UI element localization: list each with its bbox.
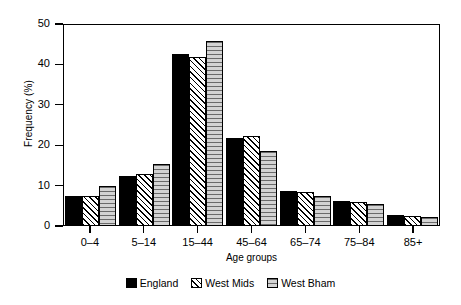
y-axis-tick xyxy=(55,225,63,226)
bar-chart-figure: Frequency (%) 01020304050 0–45–1415–4445… xyxy=(0,0,461,305)
legend-swatch-england xyxy=(126,278,137,288)
bar-west-bham xyxy=(99,186,116,225)
bar-west-mids xyxy=(404,216,421,225)
bar-west-mids xyxy=(297,192,314,225)
bar-west-bham xyxy=(367,204,384,225)
bar-west-mids xyxy=(82,196,99,225)
x-axis-tick xyxy=(359,226,360,233)
legend-swatch-west-bham xyxy=(267,278,278,288)
bar-west-bham xyxy=(206,41,223,225)
bar-west-bham xyxy=(260,151,277,225)
bar-group xyxy=(225,25,279,225)
plot-area xyxy=(63,24,440,226)
bar-west-bham xyxy=(421,217,438,225)
bar-group xyxy=(278,25,332,225)
bar-england xyxy=(280,191,297,225)
bar-england xyxy=(65,196,82,225)
bar-group xyxy=(385,25,439,225)
x-axis-tick xyxy=(251,226,252,233)
y-axis-tick xyxy=(55,23,63,24)
legend-label: West Bham xyxy=(281,277,335,289)
legend-label: West Mids xyxy=(205,277,254,289)
y-axis-tick-label: 0 xyxy=(18,220,50,231)
chart-legend: EnglandWest MidsWest Bham xyxy=(0,277,461,289)
x-axis-tick xyxy=(197,226,198,233)
x-axis-tick xyxy=(412,226,413,233)
bar-england xyxy=(119,176,136,225)
x-axis-tick-label: 85+ xyxy=(378,236,448,248)
y-axis-tick xyxy=(55,145,63,146)
legend-swatch-west-mids xyxy=(191,278,202,288)
bar-west-mids xyxy=(350,202,367,225)
bar-group xyxy=(332,25,386,225)
x-axis-tick xyxy=(305,226,306,233)
bar-england xyxy=(333,201,350,225)
bar-west-mids xyxy=(136,174,153,225)
x-axis-title: Age groups xyxy=(63,252,440,263)
x-axis-tick xyxy=(143,226,144,233)
bar-west-bham xyxy=(314,196,331,225)
bar-group xyxy=(118,25,172,225)
legend-item: West Bham xyxy=(267,277,335,289)
bar-england xyxy=(387,215,404,225)
bar-west-mids xyxy=(189,57,206,225)
legend-label: England xyxy=(140,277,179,289)
bar-england xyxy=(172,54,189,225)
bar-groups xyxy=(64,25,439,225)
x-axis-tick xyxy=(89,226,90,233)
legend-item: West Mids xyxy=(191,277,254,289)
y-axis-tick xyxy=(55,185,63,186)
bar-group xyxy=(64,25,118,225)
y-axis-tick xyxy=(55,64,63,65)
y-axis-tick-label: 30 xyxy=(18,99,50,110)
bar-west-mids xyxy=(243,136,260,225)
bar-west-bham xyxy=(153,164,170,225)
legend-item: England xyxy=(126,277,179,289)
bar-group xyxy=(171,25,225,225)
y-axis-tick xyxy=(55,104,63,105)
y-axis-tick-label: 10 xyxy=(18,180,50,191)
y-axis-tick-label: 20 xyxy=(18,139,50,150)
y-axis-tick-label: 50 xyxy=(18,18,50,29)
bar-england xyxy=(226,138,243,225)
y-axis-tick-label: 40 xyxy=(18,58,50,69)
